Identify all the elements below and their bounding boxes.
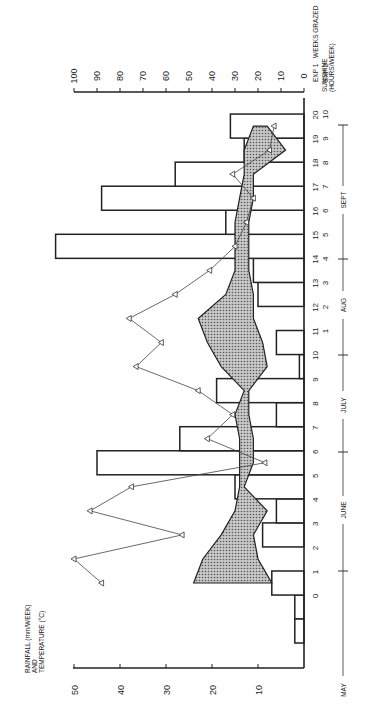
svg-text:10: 10 xyxy=(321,110,330,119)
svg-text:16: 16 xyxy=(311,206,320,215)
svg-text:2: 2 xyxy=(321,304,330,309)
svg-text:5: 5 xyxy=(321,232,330,237)
svg-text:2: 2 xyxy=(311,545,320,550)
svg-text:10: 10 xyxy=(311,351,320,360)
svg-text:12: 12 xyxy=(311,302,320,311)
svg-text:11: 11 xyxy=(311,327,320,336)
rainfall-bar xyxy=(276,403,304,427)
svg-text:40: 40 xyxy=(207,71,217,81)
rainfall-bar xyxy=(217,379,304,403)
svg-text:13: 13 xyxy=(311,278,320,287)
svg-text:90: 90 xyxy=(92,71,102,81)
svg-text:EXP 2: EXP 2 xyxy=(322,63,329,82)
sunshine-marker xyxy=(71,556,76,562)
svg-text:MAY: MAY xyxy=(340,683,347,697)
svg-text:17: 17 xyxy=(311,182,320,191)
svg-text:20: 20 xyxy=(253,71,263,81)
weather-chart: 1020304050010203040506070809010001234567… xyxy=(0,0,366,719)
rainfall-bar xyxy=(263,523,304,547)
svg-text:18: 18 xyxy=(311,158,320,167)
rainfall-bar xyxy=(253,258,304,282)
svg-text:5: 5 xyxy=(311,473,320,478)
svg-text:3: 3 xyxy=(311,521,320,526)
svg-text:80: 80 xyxy=(115,71,125,81)
svg-text:4: 4 xyxy=(321,256,330,261)
svg-text:6: 6 xyxy=(311,449,320,454)
rainfall-bar xyxy=(272,571,304,595)
svg-text:0: 0 xyxy=(299,73,309,78)
svg-text:40: 40 xyxy=(116,685,126,695)
svg-text:100: 100 xyxy=(69,68,79,83)
svg-text:60: 60 xyxy=(161,71,171,81)
svg-text:4: 4 xyxy=(311,497,320,502)
svg-text:6: 6 xyxy=(321,208,330,213)
svg-text:15: 15 xyxy=(311,230,320,239)
svg-text:30: 30 xyxy=(230,71,240,81)
rainfall-bar xyxy=(276,331,304,355)
svg-text:JUNE: JUNE xyxy=(340,501,347,519)
svg-text:20: 20 xyxy=(311,110,320,119)
svg-text:10: 10 xyxy=(276,71,286,81)
sunshine-marker xyxy=(126,315,131,321)
svg-text:19: 19 xyxy=(311,134,320,143)
svg-text:SEPT: SEPT xyxy=(340,191,347,208)
svg-text:TEMPERATURE (°C): TEMPERATURE (°C) xyxy=(38,611,46,673)
svg-text:7: 7 xyxy=(311,425,320,430)
rainfall-bar xyxy=(295,619,304,643)
svg-text:10: 10 xyxy=(254,685,264,695)
svg-text:0: 0 xyxy=(311,593,320,598)
svg-text:1: 1 xyxy=(321,328,330,333)
svg-text:EXP 1: EXP 1 xyxy=(312,63,319,82)
rainfall-bar xyxy=(258,282,304,306)
sunshine-marker xyxy=(179,532,184,538)
rainfall-bar xyxy=(295,595,304,619)
svg-text:50: 50 xyxy=(70,685,80,695)
svg-text:20: 20 xyxy=(208,685,218,695)
rainfall-bar xyxy=(56,234,304,258)
svg-text:9: 9 xyxy=(321,136,330,141)
svg-text:AUG: AUG xyxy=(340,298,347,312)
svg-text:1: 1 xyxy=(311,569,320,574)
rainfall-bars xyxy=(56,114,304,643)
svg-text:AND: AND xyxy=(31,659,38,673)
svg-text:30: 30 xyxy=(162,685,172,695)
svg-text:(HOURS/WEEK): (HOURS/WEEK) xyxy=(328,43,336,92)
svg-text:8: 8 xyxy=(321,160,330,165)
sunshine-marker xyxy=(129,484,134,490)
svg-text:7: 7 xyxy=(321,184,330,189)
rainfall-bar xyxy=(97,451,304,475)
svg-text:8: 8 xyxy=(311,401,320,406)
svg-text:JULY: JULY xyxy=(340,397,347,413)
rainfall-bar xyxy=(276,499,304,523)
svg-text:3: 3 xyxy=(321,280,330,285)
sunshine-marker xyxy=(133,364,138,370)
svg-text:50: 50 xyxy=(184,71,194,81)
sunshine-marker xyxy=(87,508,92,514)
svg-text:9: 9 xyxy=(311,377,320,382)
sunshine-marker xyxy=(172,291,177,297)
svg-text:WEEKS GRAZED: WEEKS GRAZED xyxy=(312,5,319,58)
rainfall-bar xyxy=(102,186,304,210)
sunshine-marker xyxy=(207,267,212,273)
sunshine-marker xyxy=(195,388,200,394)
svg-text:14: 14 xyxy=(311,254,320,263)
svg-text:70: 70 xyxy=(138,71,148,81)
